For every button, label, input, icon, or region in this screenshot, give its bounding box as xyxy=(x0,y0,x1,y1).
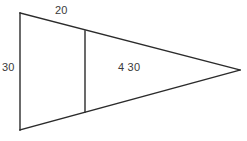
top-side-label: 20 xyxy=(55,4,68,16)
bottom-side-line xyxy=(20,70,240,130)
geometry-figure: 30 20 4 30 xyxy=(0,0,247,141)
interior-segment-label: 4 30 xyxy=(118,61,140,73)
left-side-label: 30 xyxy=(2,61,15,73)
